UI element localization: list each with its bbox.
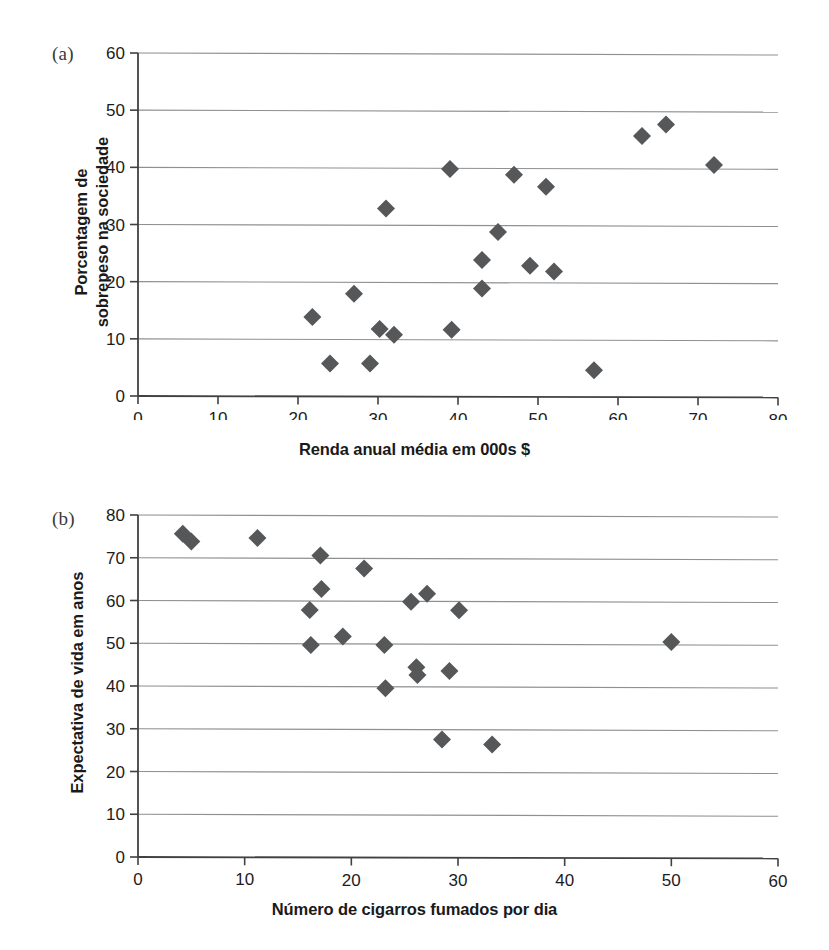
y-tick-label-40: 40 xyxy=(106,677,125,696)
x-tick-label-0: 0 xyxy=(133,870,142,889)
x-axis-label-b: Número de cigarros fumados por dia xyxy=(0,900,829,919)
data-point xyxy=(248,529,266,547)
data-point xyxy=(473,251,491,269)
data-point xyxy=(302,636,320,654)
data-point xyxy=(345,285,363,303)
x-axis-label-a: Renda anual média em 000s $ xyxy=(0,440,829,459)
x-tick-label-30: 30 xyxy=(369,410,388,420)
y-tick-label-40: 40 xyxy=(106,158,125,177)
x-tick-label-60: 60 xyxy=(769,872,788,891)
figure-page: (a) Porcentagem de sobrepeso na sociedad… xyxy=(0,0,829,950)
y-tick-label-10: 10 xyxy=(106,330,125,349)
y-tick-label-20: 20 xyxy=(106,273,125,292)
data-point xyxy=(521,257,539,275)
data-point xyxy=(441,160,459,178)
gridline-y-10 xyxy=(138,339,778,341)
gridline-y-10 xyxy=(138,814,778,816)
scatter-plot-b: (b) Expectativa de vida em anos 01020304… xyxy=(0,475,829,950)
gridline-y-60 xyxy=(138,53,778,55)
data-point xyxy=(301,601,319,619)
x-tick-label-50: 50 xyxy=(529,410,548,420)
data-point xyxy=(334,627,352,645)
y-tick-label-60: 60 xyxy=(106,592,125,611)
data-point xyxy=(585,361,603,379)
data-point xyxy=(375,636,393,654)
y-tick-label-20: 20 xyxy=(106,763,125,782)
y-tick-label-60: 60 xyxy=(106,44,125,63)
y-tick-label-70: 70 xyxy=(106,549,125,568)
data-point xyxy=(537,178,555,196)
x-tick-label-0: 0 xyxy=(133,409,142,420)
data-point xyxy=(483,736,501,754)
y-tick-label-0: 0 xyxy=(116,848,125,867)
gridline-y-70 xyxy=(138,558,778,560)
y-tick-label-0: 0 xyxy=(116,387,125,406)
gridline-y-60 xyxy=(138,601,778,603)
data-point xyxy=(321,354,339,372)
data-point xyxy=(545,262,563,280)
y-tick-label-10: 10 xyxy=(106,805,125,824)
data-point xyxy=(303,308,321,326)
x-tick-label-80: 80 xyxy=(769,411,788,421)
data-point xyxy=(443,321,461,339)
y-tick-label-30: 30 xyxy=(106,720,125,739)
data-point xyxy=(433,730,451,748)
data-point xyxy=(377,199,395,217)
data-point xyxy=(311,547,329,565)
data-point xyxy=(633,127,651,145)
data-point xyxy=(657,115,675,133)
x-tick-label-70: 70 xyxy=(689,410,708,420)
x-tick-label-50: 50 xyxy=(662,871,681,890)
gridline-y-30 xyxy=(138,225,778,227)
gridline-y-50 xyxy=(138,643,778,645)
gridline-y-50 xyxy=(138,110,778,112)
x-tick-label-10: 10 xyxy=(235,870,254,889)
data-point xyxy=(662,633,680,651)
y-tick-label-50: 50 xyxy=(106,634,125,653)
scatter-plot-a: (a) Porcentagem de sobrepeso na sociedad… xyxy=(0,0,829,475)
data-point xyxy=(450,601,468,619)
data-point xyxy=(376,679,394,697)
data-point xyxy=(361,354,379,372)
plot-area-a: 010203040506001020304050607080 xyxy=(0,0,829,420)
gridline-y-20 xyxy=(138,282,778,284)
y-tick-label-80: 80 xyxy=(106,506,125,525)
x-tick-label-10: 10 xyxy=(209,409,228,420)
x-tick-label-20: 20 xyxy=(342,871,361,890)
gridline-y-30 xyxy=(138,729,778,731)
x-tick-label-30: 30 xyxy=(449,871,468,890)
y-tick-label-50: 50 xyxy=(106,101,125,120)
data-point xyxy=(705,156,723,174)
x-tick-label-40: 40 xyxy=(555,871,574,890)
data-point xyxy=(355,559,373,577)
data-point xyxy=(402,593,420,611)
plot-area-b: 010203040506070800102030405060 xyxy=(0,475,829,890)
x-tick-label-40: 40 xyxy=(449,410,468,420)
x-tick-label-60: 60 xyxy=(609,410,628,420)
x-tick-label-20: 20 xyxy=(289,409,308,420)
gridline-y-20 xyxy=(138,772,778,774)
gridline-y-80 xyxy=(138,515,778,517)
y-tick-label-30: 30 xyxy=(106,216,125,235)
data-point xyxy=(418,585,436,603)
data-point xyxy=(312,580,330,598)
data-point xyxy=(440,662,458,680)
gridline-y-40 xyxy=(138,686,778,688)
